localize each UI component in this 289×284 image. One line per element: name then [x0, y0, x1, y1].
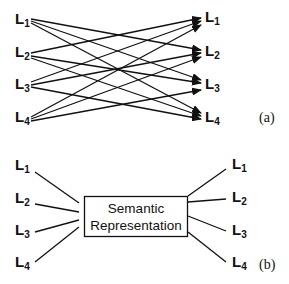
panel-a-right-label-2: L2	[205, 42, 220, 61]
panel-a-right-label-4: L4	[205, 108, 220, 127]
panel-b-right-label-4: L4	[232, 253, 247, 272]
panel-b-left-connectors	[35, 172, 79, 262]
panel-a-caption: (a)	[259, 110, 275, 126]
panel-b-left-label-3: L3	[15, 221, 30, 240]
box-label-line2: Representation	[90, 218, 182, 233]
panel-a-right-label-3: L3	[205, 75, 220, 94]
panel-b-left-label-1: L1	[15, 156, 30, 175]
connector-right-l3	[188, 216, 226, 231]
panel-a-left-label-3: L3	[15, 75, 30, 94]
semantic-representation-box: Semantic Representation	[85, 197, 188, 237]
panel-a-left-label-4: L4	[15, 108, 30, 127]
connector-right-l1	[188, 169, 226, 196]
panel-b: L1 L2 L3 L4 Semantic Representation	[15, 155, 276, 273]
panel-a-left-labels: L1 L2 L3 L4	[15, 10, 30, 127]
diagram-root: L1 L2 L3 L4 L1 L2 L3 L4	[0, 0, 289, 284]
panel-a-arrows	[31, 18, 201, 121]
box-label-line1: Semantic	[108, 201, 165, 216]
panel-b-right-connectors	[188, 169, 226, 262]
panel-a: L1 L2 L3 L4 L1 L2 L3 L4	[15, 8, 275, 127]
panel-b-left-label-4: L4	[15, 253, 30, 272]
connector-left-l1	[35, 172, 79, 203]
connector-left-l4	[35, 227, 79, 262]
arrow-l3-to-l2	[31, 53, 201, 85]
connector-left-l2	[35, 204, 79, 212]
panel-a-left-label-2: L2	[15, 43, 30, 62]
arrow-l1-to-l4	[31, 23, 201, 113]
arrow-l4-to-l3	[31, 90, 201, 121]
panel-b-right-label-2: L2	[232, 188, 247, 207]
panel-a-right-label-1: L1	[205, 8, 220, 27]
panel-b-right-label-1: L1	[232, 155, 247, 174]
panel-b-left-labels: L1 L2 L3 L4	[15, 156, 30, 272]
diagram-canvas: L1 L2 L3 L4 L1 L2 L3 L4	[0, 0, 289, 284]
panel-b-right-labels: L1 L2 L3 L4	[232, 155, 247, 272]
connector-right-l4	[188, 232, 226, 262]
connector-left-l3	[35, 220, 79, 232]
panel-a-right-labels: L1 L2 L3 L4	[205, 8, 220, 127]
connector-right-l2	[188, 199, 226, 202]
panel-b-left-label-2: L2	[15, 189, 30, 208]
panel-b-right-label-3: L3	[232, 221, 247, 240]
panel-b-caption: (b)	[259, 257, 276, 273]
panel-a-left-label-1: L1	[15, 10, 30, 29]
